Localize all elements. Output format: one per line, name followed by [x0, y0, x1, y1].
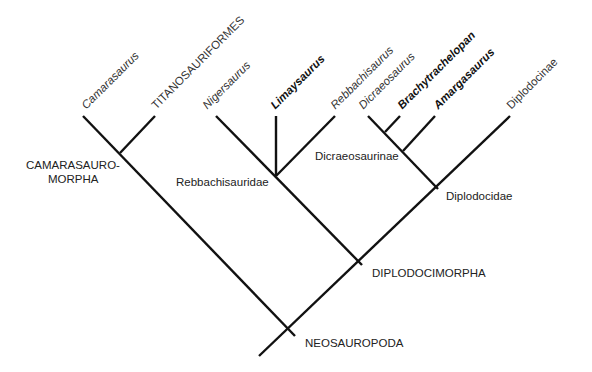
clade-diplodocimorpha: DIPLODOCIMORPHA: [372, 268, 486, 280]
cladogram-branches: [0, 0, 592, 372]
clade-rebbachisauridae: Rebbachisauridae: [176, 177, 269, 189]
clade-dicraeosaurinae: Dicraeosaurinae: [315, 151, 399, 163]
clade-diplodocidae: Diplodocidae: [446, 191, 513, 203]
clade-neosauropoda: NEOSAUROPODA: [305, 338, 403, 350]
clade-camarasauromorpha-line1: CAMARASAURO-: [26, 160, 120, 172]
clade-camarasauromorpha-line2: MORPHA: [48, 174, 98, 186]
